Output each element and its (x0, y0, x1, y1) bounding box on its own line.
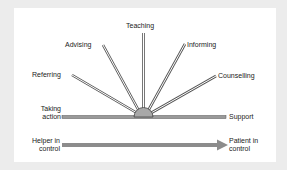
label-advising: Advising (65, 41, 91, 49)
label-teaching: Teaching (126, 22, 154, 30)
label-taking-action-line1: Taking (33, 105, 61, 113)
label-helper-in-control: Helper in control (18, 137, 60, 153)
control-arrow (62, 140, 228, 151)
label-helper-line1: Helper in (18, 137, 60, 145)
label-patient-line2: control (229, 145, 258, 153)
label-helper-line2: control (18, 145, 60, 153)
label-support: Support (229, 113, 254, 121)
label-patient-line1: Patient in (229, 137, 258, 145)
label-taking-action-line2: action (33, 113, 61, 121)
label-referring: Referring (32, 71, 61, 79)
label-informing: Informing (187, 41, 216, 49)
label-taking-action: Taking action (33, 105, 61, 121)
label-patient-in-control: Patient in control (229, 137, 258, 153)
label-counselling: Counselling (218, 72, 255, 80)
